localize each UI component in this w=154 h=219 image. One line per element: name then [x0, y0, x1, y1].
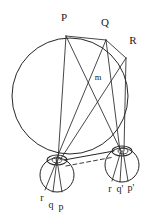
- label-p: p: [59, 201, 64, 212]
- line-P-to-left-node: [58, 36, 66, 160]
- figure-svg: P Q R m r q p r q' p': [0, 0, 154, 219]
- line-R-to-right-node: [124, 58, 126, 151]
- label-q: q: [49, 199, 54, 210]
- line-R-to-left-node: [60, 58, 126, 160]
- label-r-prime: r: [108, 183, 112, 194]
- chord-Q-R: [106, 40, 126, 58]
- left-circle-group: [40, 155, 74, 192]
- label-P: P: [61, 11, 67, 23]
- label-q-prime: q': [117, 183, 124, 194]
- label-m: m: [95, 72, 102, 82]
- label-p-prime: p': [128, 182, 135, 193]
- label-R: R: [129, 34, 137, 46]
- label-r: r: [40, 192, 44, 203]
- label-Q: Q: [101, 16, 109, 28]
- construction-lines: [56, 36, 126, 160]
- main-circle: [12, 38, 128, 154]
- geometry-diagram-canvas: P Q R m r q p r q' p': [0, 0, 154, 219]
